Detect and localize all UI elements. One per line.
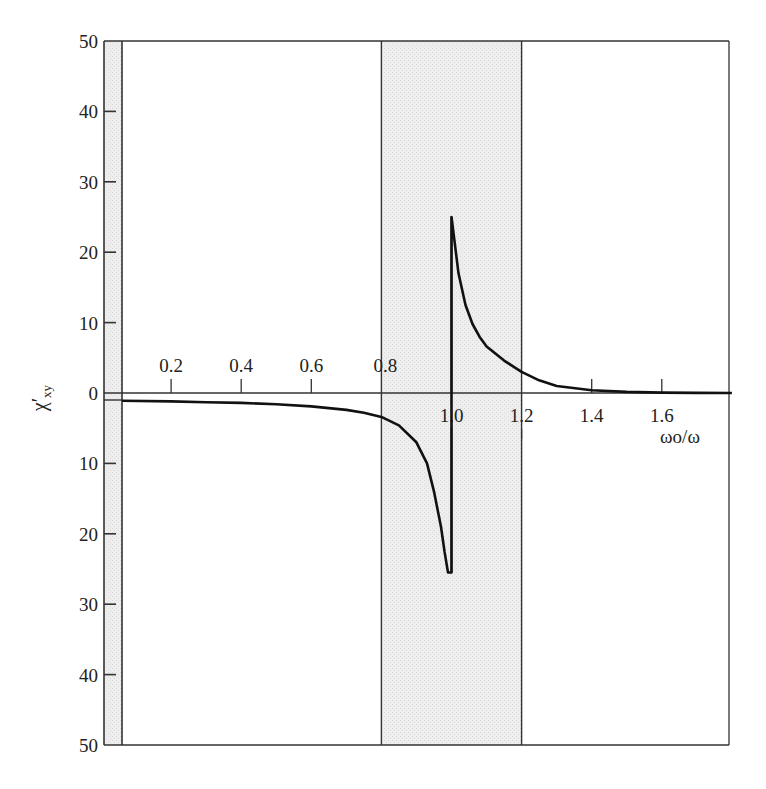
y-tick-label: 40 xyxy=(79,665,98,686)
y-tick-label: 0 xyxy=(89,383,99,404)
y-tick-label: 10 xyxy=(79,453,98,474)
y-tick-label: 30 xyxy=(79,172,98,193)
y-axis-label: χ′xy xyxy=(28,384,54,412)
y-tick-label: 40 xyxy=(79,101,98,122)
y-tick-label: 20 xyxy=(79,524,98,545)
x-tick-label: 1.4 xyxy=(580,405,604,426)
x-tick-label: 1.2 xyxy=(510,405,534,426)
y-tick-label: 50 xyxy=(79,735,98,756)
chart-canvas: 504030201001020304050 0.20.40.60.81.01.2… xyxy=(0,0,766,789)
y-tick-label: 10 xyxy=(79,313,98,334)
y-tick-label: 50 xyxy=(79,31,98,52)
y-tick-label: 30 xyxy=(79,594,98,615)
y-tick-label: 20 xyxy=(79,242,98,263)
x-tick-label: 0.4 xyxy=(229,355,253,376)
x-tick-label: 1.6 xyxy=(650,405,674,426)
x-tick-label: 0.8 xyxy=(374,355,398,376)
x-tick-label: 0.6 xyxy=(299,355,323,376)
x-axis-label: ωo/ω xyxy=(660,426,700,447)
x-tick-label: 0.2 xyxy=(159,355,183,376)
